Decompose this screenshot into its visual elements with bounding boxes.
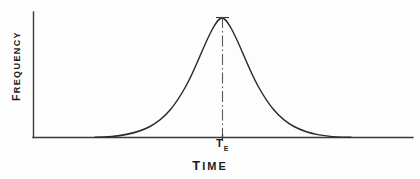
x-axis-title-initial: T	[192, 158, 202, 173]
mean-tick-label: TE	[190, 137, 254, 151]
mean-label-base: T	[216, 137, 223, 149]
x-axis-title-rest: IME	[202, 160, 228, 172]
y-axis-title-rest: REQUENCY	[12, 31, 22, 93]
x-axis-title: TIME	[0, 158, 420, 173]
frequency-distribution-figure: FREQUENCY TE TIME	[0, 0, 420, 179]
y-axis-title: FREQUENCY	[10, 18, 22, 114]
mean-label-subscript: E	[224, 145, 229, 152]
y-axis-title-initial: F	[10, 93, 22, 101]
plot-area	[0, 0, 420, 179]
